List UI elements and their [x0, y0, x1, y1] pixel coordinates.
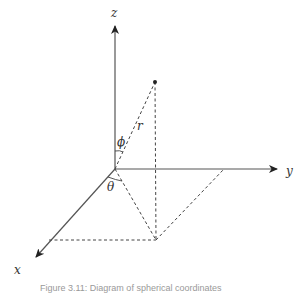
radius-line: [115, 82, 155, 169]
vertical-projection-line: [155, 82, 156, 240]
y-axis-label: y: [285, 164, 293, 178]
point-p: [153, 80, 157, 84]
figure-caption: Figure 3.11: Diagram of spherical coordi…: [40, 283, 221, 293]
x-axis: [36, 169, 115, 257]
z-axis-label: z: [110, 6, 118, 20]
x-axis-label: x: [14, 263, 21, 277]
phi-arc: [115, 151, 123, 152]
phi-label: ϕ: [117, 135, 125, 149]
y-parallel-line: [156, 169, 224, 240]
theta-label: θ: [107, 180, 115, 194]
radius-label: r: [137, 119, 144, 133]
ground-projection-line: [115, 169, 156, 240]
